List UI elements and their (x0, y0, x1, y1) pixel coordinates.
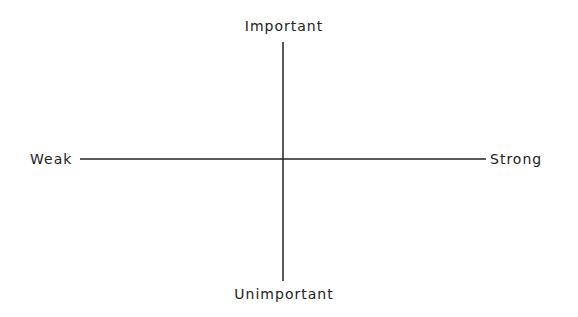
axis-label-important: Important (245, 18, 323, 34)
axis-label-weak: Weak (30, 151, 72, 167)
axis-label-unimportant: Unimportant (234, 286, 333, 302)
axis-label-strong: Strong (490, 151, 542, 167)
